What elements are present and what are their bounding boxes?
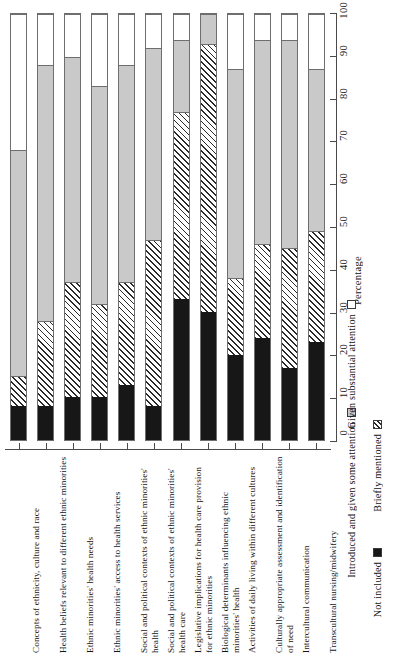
y-tick	[330, 355, 336, 356]
bar-segment-black	[309, 342, 324, 440]
y-tick-label: 70	[339, 130, 349, 141]
y-axis-line	[336, 13, 337, 442]
category-label-slot: Ethnic minorities' health needs	[59, 455, 86, 655]
stacked-bar[interactable]	[91, 13, 108, 441]
bar-slot	[222, 13, 249, 441]
bar-slot	[86, 13, 113, 441]
x-tick	[32, 443, 59, 449]
legend-item[interactable]: Introduced and given some attention	[346, 408, 357, 578]
x-tick	[303, 443, 330, 449]
category-label-slot: Activities of daily living within differ…	[222, 455, 249, 655]
x-axis-line	[5, 449, 331, 450]
stacked-bar[interactable]	[10, 13, 27, 441]
bar-segment-gray	[65, 57, 80, 283]
legend-label: Not included	[372, 562, 383, 617]
y-tick	[330, 398, 336, 399]
stacked-bar[interactable]	[200, 13, 217, 441]
legend-item[interactable]: Given substantial attention	[346, 300, 357, 429]
x-tick	[113, 443, 140, 449]
x-tick	[195, 443, 222, 449]
bar-segment-white	[65, 14, 80, 57]
bar-segment-gray	[146, 48, 161, 240]
category-label-slot: Concepts of ethnicity, culture and race	[5, 455, 32, 655]
bar-segment-hatch	[11, 376, 26, 406]
x-tick	[222, 443, 249, 449]
x-tick	[167, 443, 194, 449]
bar-segment-white	[228, 14, 243, 69]
legend-label: Given substantial attention	[346, 314, 357, 429]
bar-segment-white	[255, 14, 270, 40]
plot-area	[5, 13, 330, 441]
legend-swatch-black	[373, 548, 382, 557]
bar-slot	[140, 13, 167, 441]
bar-segment-black	[255, 338, 270, 440]
y-tick	[330, 313, 336, 314]
x-tick	[140, 443, 167, 449]
y-tick	[330, 441, 336, 442]
stacked-bar[interactable]	[145, 13, 162, 441]
bar-segment-white	[174, 14, 189, 40]
bar-segment-white	[282, 14, 297, 40]
y-tick	[330, 184, 336, 185]
y-tick-label: 100	[339, 2, 349, 19]
category-label-slot: Culturally appropriate assessment and id…	[249, 455, 276, 655]
y-tick-label: 80	[339, 88, 349, 99]
bar-slot	[167, 13, 194, 441]
y-tick	[330, 141, 336, 142]
bar-segment-black	[11, 406, 26, 440]
bar-segment-gray	[11, 150, 26, 376]
y-tick-label: 40	[339, 259, 349, 270]
y-tick	[330, 13, 336, 14]
bar-segment-black	[201, 312, 216, 440]
chart-legend: Not includedBriefly mentionedIntroduced …	[372, 300, 402, 648]
bar-segment-hatch	[201, 44, 216, 312]
stacked-bar[interactable]	[118, 13, 135, 441]
x-axis-ticks	[5, 443, 330, 449]
category-label-slot: Health beliefs relevant to different eth…	[32, 455, 59, 655]
y-tick-label: 60	[339, 173, 349, 184]
bar-segment-hatch	[92, 304, 107, 398]
bar-segment-black	[65, 397, 80, 440]
legend-label: Briefly mentioned	[372, 434, 383, 512]
legend-item[interactable]: Not included	[372, 548, 383, 617]
bar-segment-hatch	[119, 282, 134, 384]
bar-slot	[249, 13, 276, 441]
stacked-bar[interactable]	[37, 13, 54, 441]
bar-slot	[5, 13, 32, 441]
category-label-slot: Ethnic minorities' access to health serv…	[86, 455, 113, 655]
legend-label: Introduced and given some attention	[346, 422, 357, 578]
bar-slot	[113, 13, 140, 441]
y-tick	[330, 56, 336, 57]
x-tick	[59, 443, 86, 449]
bar-slot	[276, 13, 303, 441]
bar-segment-hatch	[282, 248, 297, 367]
bar-segment-white	[38, 14, 53, 65]
stacked-bar[interactable]	[64, 13, 81, 441]
bar-segment-gray	[201, 14, 216, 44]
x-tick	[5, 443, 32, 449]
category-label-slot: Intercultural communication	[276, 455, 303, 655]
stacked-bar[interactable]	[254, 13, 271, 441]
y-tick	[330, 270, 336, 271]
legend-item[interactable]: Briefly mentioned	[372, 420, 383, 512]
bar-segment-hatch	[309, 231, 324, 342]
stacked-bar[interactable]	[308, 13, 325, 441]
bar-segment-hatch	[228, 278, 243, 355]
bar-segment-hatch	[38, 321, 53, 406]
stacked-bar[interactable]	[173, 13, 190, 441]
bar-segment-black	[228, 355, 243, 440]
stacked-bar[interactable]	[227, 13, 244, 441]
stacked-bar[interactable]	[281, 13, 298, 441]
bar-segment-gray	[119, 65, 134, 282]
y-tick	[330, 227, 336, 228]
bar-segment-hatch	[146, 240, 161, 406]
bar-segment-white	[11, 14, 26, 150]
bar-segment-hatch	[255, 244, 270, 338]
bar-segment-hatch	[65, 282, 80, 397]
category-label-slot: Transcultural nursing/midwifery	[303, 455, 330, 655]
bar-segment-black	[146, 406, 161, 440]
category-label-slot: Legislative implications for health care…	[167, 455, 194, 655]
legend-swatch-white	[347, 300, 356, 309]
bar-segment-gray	[228, 69, 243, 278]
x-tick	[276, 443, 303, 449]
